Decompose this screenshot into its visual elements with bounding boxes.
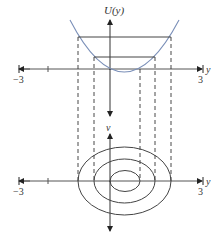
bottom-x-max-label: 3 [198, 186, 203, 197]
bottom-ylabel: v [106, 122, 111, 133]
top-x-min-label: −3 [13, 74, 24, 85]
top-ylabel: U(y) [104, 4, 124, 17]
bottom-x-min-label: −3 [13, 186, 24, 197]
top-xlabel: y [205, 64, 211, 75]
potential-phase-diagram: U(y) y −3 3 v y −3 3 [0, 0, 218, 243]
bottom-xlabel: y [205, 176, 211, 187]
top-x-max-label: 3 [198, 74, 203, 85]
bottom-panel: v y −3 3 [13, 122, 211, 231]
potential-curve [70, 20, 179, 72]
top-panel: U(y) y −3 3 [13, 4, 211, 116]
